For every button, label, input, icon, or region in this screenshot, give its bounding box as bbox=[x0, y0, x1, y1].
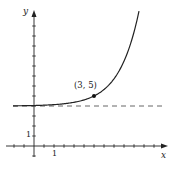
x-axis-label: x bbox=[161, 151, 166, 160]
y-tick-label-1: 1 bbox=[26, 131, 31, 139]
point-label: (3, 5) bbox=[74, 81, 97, 90]
x-tick-label-1: 1 bbox=[52, 150, 57, 158]
y-axis-label: y bbox=[23, 7, 28, 16]
exponential-curve bbox=[13, 11, 139, 106]
x-axis-arrow-icon bbox=[161, 144, 168, 149]
point-marker bbox=[92, 94, 96, 98]
